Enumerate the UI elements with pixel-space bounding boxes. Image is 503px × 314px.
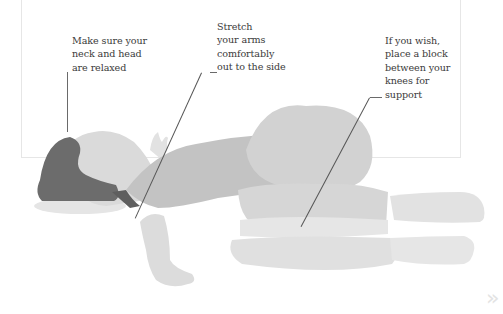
caption-neck-and-head: Make sure your neck and head are relaxed <box>72 34 147 74</box>
caption-stretch-arms: Stretch your arms comfortably out to the… <box>217 20 286 74</box>
leader-line-arms <box>210 72 217 73</box>
next-chevron-icon[interactable]: » <box>486 287 493 309</box>
caption-knee-block: If you wish, place a block between your … <box>385 34 450 101</box>
leader-line-neck <box>67 72 68 132</box>
leader-line-knees <box>370 97 382 98</box>
